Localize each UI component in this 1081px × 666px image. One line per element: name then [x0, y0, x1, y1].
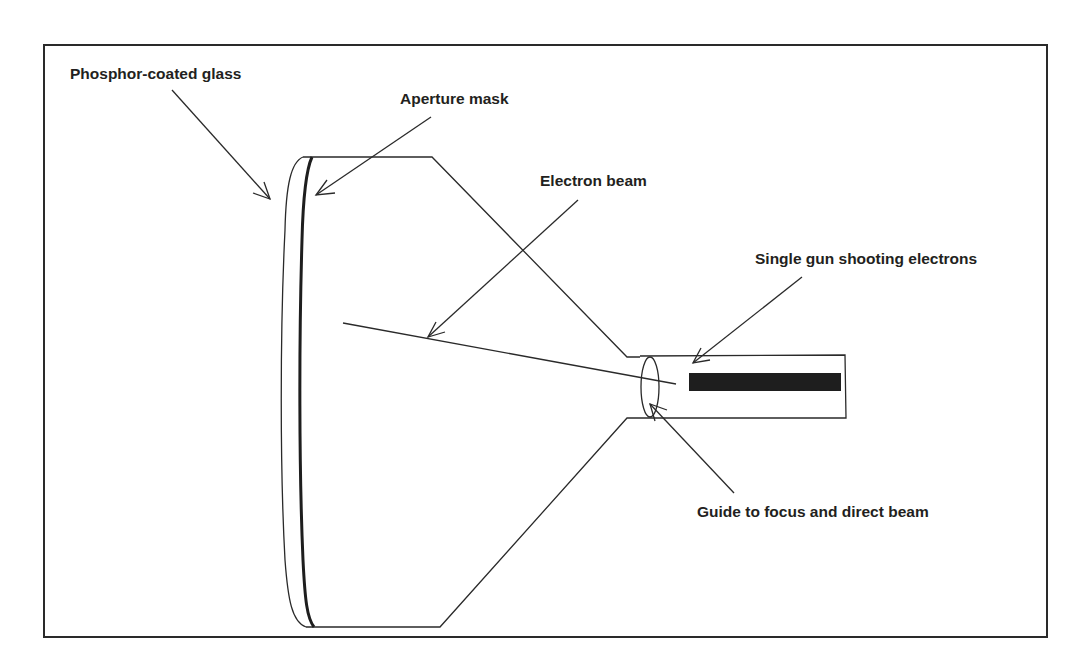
electron-beam	[343, 323, 676, 384]
label-focus-guide: Guide to focus and direct beam	[697, 503, 929, 520]
crt-tube-outline	[303, 157, 846, 627]
crt-diagram: Phosphor-coated glass Aperture mask Elec…	[0, 0, 1081, 666]
electron-gun	[689, 373, 841, 391]
label-aperture-mask: Aperture mask	[400, 90, 509, 107]
label-phosphor-coated-glass: Phosphor-coated glass	[70, 65, 241, 82]
focus-guide-ring	[641, 357, 659, 417]
aperture-mask	[300, 157, 314, 627]
label-single-gun: Single gun shooting electrons	[755, 250, 977, 267]
label-electron-beam: Electron beam	[540, 172, 647, 189]
leader-arrows	[172, 90, 802, 493]
diagram-frame	[44, 45, 1047, 637]
